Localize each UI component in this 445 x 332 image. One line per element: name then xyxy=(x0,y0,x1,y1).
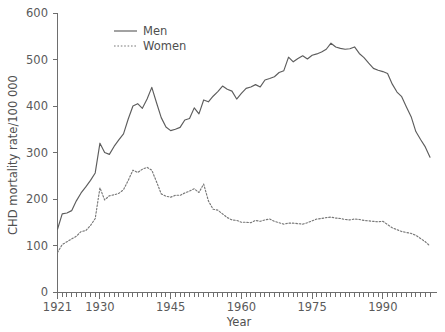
y-tick-label: 0 xyxy=(41,285,48,299)
x-tick-label: 1990 xyxy=(368,300,397,314)
series-line-women xyxy=(58,167,431,252)
y-axis-group: 0100200300400500600 CHD mortality rate/1… xyxy=(6,6,58,299)
legend-label-men: Men xyxy=(143,24,167,38)
y-tick-label: 100 xyxy=(26,239,48,253)
x-axis-tick-labels: 192119301945196019751990 xyxy=(43,300,398,314)
y-axis-tick-labels: 0100200300400500600 xyxy=(26,6,48,299)
x-axis-group: 192119301945196019751990 Year xyxy=(43,293,437,330)
x-tick-label: 1960 xyxy=(227,300,256,314)
y-tick-label: 300 xyxy=(26,146,48,160)
x-tick-label: 1975 xyxy=(297,300,326,314)
x-tick-label: 1930 xyxy=(85,300,114,314)
y-axis-title: CHD mortality rate/100 000 xyxy=(6,75,20,235)
y-axis-ticks xyxy=(53,13,58,292)
series-line-men xyxy=(58,43,431,229)
y-tick-label: 600 xyxy=(26,6,48,20)
plot-series-group xyxy=(58,43,431,252)
y-tick-label: 400 xyxy=(26,99,48,113)
legend-label-women: Women xyxy=(143,39,186,53)
x-tick-label: 1945 xyxy=(156,300,185,314)
x-tick-label: 1921 xyxy=(43,300,72,314)
y-tick-label: 500 xyxy=(26,53,48,67)
chd-mortality-line-chart: 0100200300400500600 CHD mortality rate/1… xyxy=(0,0,445,332)
y-tick-label: 200 xyxy=(26,192,48,206)
x-axis-major-ticks xyxy=(58,293,383,299)
legend: Men Women xyxy=(114,24,186,53)
chart-canvas: 0100200300400500600 CHD mortality rate/1… xyxy=(0,0,445,332)
x-axis-minor-ticks xyxy=(58,293,431,297)
x-axis-title: Year xyxy=(226,315,252,329)
